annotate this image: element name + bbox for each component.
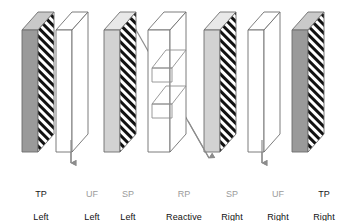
label-sp-left-desc: Left [114,212,142,222]
label-uf-right-abbr: UF [262,189,294,201]
label-sp-right: SP Right [216,177,248,221]
plate-sp-left [104,12,136,152]
label-uf-left-desc: Left [78,212,106,222]
label-sp-left: SP Left [114,177,142,221]
label-rp-reactive-plate: RP Reactive plate [158,177,210,221]
label-sp-right-desc: Right [216,212,248,222]
diagram-canvas: TP Left UF Left SP Left RP Reactive plat… [0,0,357,221]
label-tp-left-desc: Left [22,212,60,222]
label-tp-right-abbr: TP [306,189,342,201]
plate-tp-right [292,12,324,152]
label-tp-right-desc: Right [306,212,342,222]
label-sp-right-abbr: SP [216,189,248,201]
plate-sp-right [204,12,236,152]
plate-tp-left [22,12,54,152]
label-rp-abbr: RP [158,189,210,201]
label-uf-left-abbr: UF [78,189,106,201]
label-tp-left: TP Left [22,177,60,221]
label-uf-right-desc: Right [262,212,294,222]
plate-uf-left [56,12,88,152]
plate-uf-right [248,12,280,152]
label-uf-right: UF Right [262,177,294,221]
label-sp-left-abbr: SP [114,189,142,201]
label-tp-left-abbr: TP [22,189,60,201]
plate-rp-reactive [148,12,186,152]
label-rp-desc: Reactive plate [158,212,210,222]
label-uf-left: UF Left [78,177,106,221]
label-tp-right: TP Right [306,177,342,221]
